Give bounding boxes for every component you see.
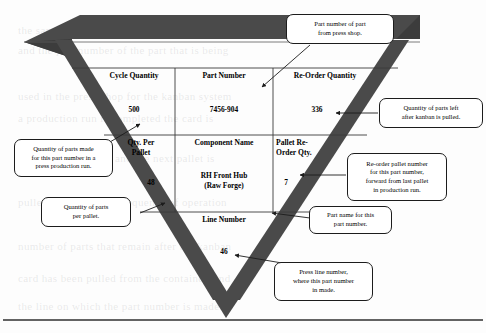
reorder-quantity-header: Re-Order Quantity (276, 72, 374, 81)
line-number-callout-line3: in made. (279, 286, 368, 295)
part-number-callout-line1: Part number of part (291, 20, 389, 29)
page-canvas: the same information as the front but in… (0, 0, 486, 333)
qty-per-pallet-value: 48 (130, 179, 172, 188)
reorder-quantity-callout-line2: after kanban is pulled. (384, 113, 478, 122)
reorder-quantity-callout-line1: Quantity of parts left (384, 104, 478, 113)
qty-per-pallet-callout[interactable]: Quantity of parts per pallet. (41, 197, 131, 227)
cycle-quantity-callout[interactable]: Quantity of parts made for this part num… (14, 139, 113, 177)
qty-per-pallet-header-line2: Pallet (110, 149, 172, 158)
qty-per-pallet-header-line1: Qty. Per (110, 139, 172, 148)
cycle-quantity-callout-line1: Quantity of parts made (19, 145, 108, 154)
pallet-reorder-header-line2: Order Qty. (276, 149, 332, 158)
cycle-quantity-value: 500 (96, 106, 172, 115)
component-name-value-line2: (Raw Forge) (178, 182, 270, 191)
pallet-reorder-callout-line4: in production run. (352, 186, 442, 195)
pallet-reorder-callout[interactable]: Re-order pallet number for this part num… (347, 153, 447, 201)
cycle-quantity-header: Cycle Quantity (96, 72, 172, 81)
pallet-reorder-callout-line1: Re-order pallet number (352, 160, 442, 169)
line-number-callout[interactable]: Press line number, where this part numbe… (274, 262, 373, 301)
part-number-callout[interactable]: Part number of part from press shop. (286, 14, 394, 44)
part-number-header: Part Number (178, 72, 270, 81)
part-name-callout[interactable]: Part name for this part number. (309, 206, 392, 234)
pallet-reorder-callout-line2: for this part number, (352, 168, 442, 177)
line-number-value: 46 (178, 248, 270, 257)
cycle-quantity-callout-line3: press production run. (19, 162, 108, 171)
line-number-callout-line2: where this part number (279, 277, 368, 286)
component-name-header: Component Name (178, 139, 270, 148)
qty-per-pallet-callout-line2: per pallet. (46, 212, 126, 221)
pallet-reorder-header-line1: Pallet Re- (276, 139, 332, 148)
reorder-quantity-callout[interactable]: Quantity of parts left after kanban is p… (379, 98, 483, 128)
cycle-quantity-callout-line2: for this part number in a (19, 154, 108, 163)
reorder-quantity-value: 336 (276, 106, 358, 115)
part-number-value: 7456-904 (178, 106, 270, 115)
line-number-header: Line Number (178, 216, 270, 225)
part-name-callout-line1: Part name for this (314, 211, 387, 220)
qty-per-pallet-callout-line1: Quantity of parts (46, 203, 126, 212)
part-name-callout-line2: part number. (314, 220, 387, 229)
line-number-callout-line1: Press line number, (279, 268, 368, 277)
pallet-reorder-value: 7 (276, 179, 296, 188)
component-name-value-line1: RH Front Hub (178, 172, 270, 181)
pallet-reorder-callout-line3: forward from last pallet (352, 177, 442, 186)
part-number-callout-line2: from press shop. (291, 29, 389, 38)
